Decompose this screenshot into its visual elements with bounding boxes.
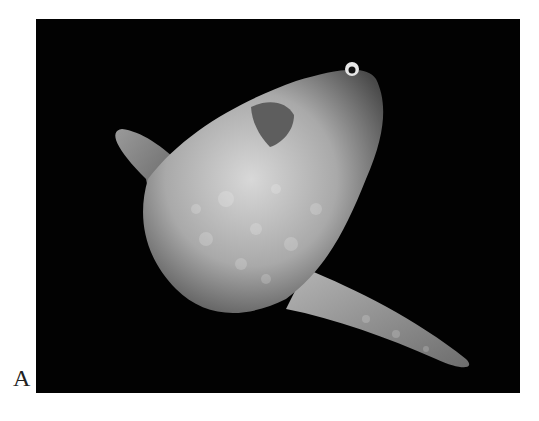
sunfish-photo bbox=[36, 19, 520, 393]
lower-fin bbox=[286, 269, 469, 367]
sunfish-illustration bbox=[36, 19, 520, 393]
panel-label: A bbox=[13, 366, 30, 390]
